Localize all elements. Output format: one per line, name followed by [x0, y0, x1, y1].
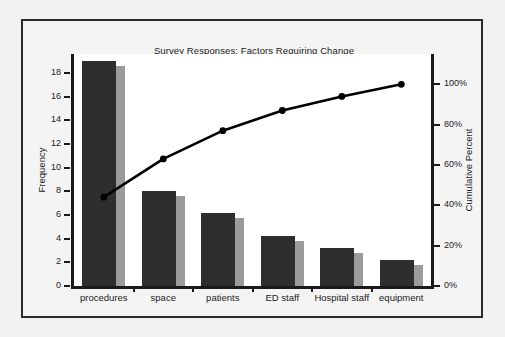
y-axis-left-tick-label: 14	[51, 114, 61, 124]
y-axis-right-tick	[434, 83, 440, 85]
x-axis-category-label: Hospital staff	[312, 292, 372, 303]
y-axis-right-tick-label: 80%	[444, 119, 462, 129]
y-axis-left-tick	[64, 96, 70, 98]
figure-canvas: Survey Responses: Factors Requiring Chan…	[0, 0, 505, 337]
y-axis-right-tick	[434, 124, 440, 126]
plot-area: 024681012141618 0%20%40%60%80%100% proce…	[74, 54, 431, 286]
cumulative-markers	[100, 81, 404, 201]
y-axis-left-tick-label: 2	[56, 256, 61, 266]
y-axis-left-tick-label: 6	[56, 209, 61, 219]
y-axis-right-tick-label: 40%	[444, 199, 462, 209]
y-axis-left-tick-label: 8	[56, 185, 61, 195]
cumulative-marker	[100, 194, 107, 201]
y-axis-left-tick-label: 4	[56, 233, 61, 243]
y-axis-right-tick	[434, 204, 440, 206]
y-axis-right-tick	[434, 164, 440, 166]
y-axis-left-tick	[64, 214, 70, 216]
y-axis-left-tick-label: 0	[56, 280, 61, 290]
x-axis-category-label: patients	[193, 292, 253, 303]
y-axis-left-tick	[64, 143, 70, 145]
y-axis-right-tick	[434, 285, 440, 287]
x-axis-category-label: space	[134, 292, 194, 303]
chart-frame: Survey Responses: Factors Requiring Chan…	[21, 19, 483, 318]
x-axis-category-label: equipment	[372, 292, 432, 303]
y-axis-left-tick	[64, 238, 70, 240]
y-axis-left-tick-label: 16	[51, 91, 61, 101]
cumulative-marker	[279, 107, 286, 114]
x-axis-category-label: procedures	[74, 292, 134, 303]
y-axis-left-tick-label: 10	[51, 162, 61, 172]
y-axis-left-tick	[64, 167, 70, 169]
y-axis-right-tick	[434, 245, 440, 247]
x-axis-category-label: ED staff	[253, 292, 313, 303]
y-axis-left-tick	[64, 72, 70, 74]
y-axis-left-tick-label: 18	[51, 67, 61, 77]
y-axis-right-tick-label: 0%	[444, 280, 457, 290]
cumulative-marker	[160, 156, 167, 163]
y-axis-left-tick	[64, 285, 70, 287]
y-axis-left-tick	[64, 190, 70, 192]
cumulative-line-series	[74, 54, 431, 286]
cumulative-marker	[398, 81, 405, 88]
y-axis-right-title: Cumulative Percent	[463, 54, 477, 286]
cumulative-marker	[338, 93, 345, 100]
y-axis-right-tick-label: 100%	[444, 78, 467, 88]
y-axis-right-tick-label: 20%	[444, 240, 462, 250]
y-axis-right-spine	[431, 54, 434, 286]
y-axis-left-tick	[64, 261, 70, 263]
cumulative-polyline	[104, 84, 402, 197]
y-axis-left-tick-label: 12	[51, 138, 61, 148]
y-axis-left-tick	[64, 119, 70, 121]
cumulative-marker	[219, 127, 226, 134]
y-axis-left-title: Frequency	[36, 54, 50, 286]
y-axis-right-tick-label: 60%	[444, 159, 462, 169]
